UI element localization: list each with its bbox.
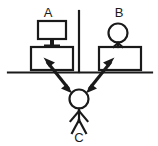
node-c-group[interactable]: C [70, 90, 89, 146]
connector-c-to-a-shaft [48, 63, 68, 88]
separator-group [8, 11, 152, 73]
person-b-head-icon [109, 24, 128, 43]
node-b-label: B [115, 5, 124, 20]
person-c-head-icon [70, 90, 89, 109]
node-a-group[interactable]: A [31, 5, 73, 70]
diagram-canvas: A B C [0, 0, 158, 146]
node-b-group[interactable]: B [99, 5, 141, 70]
monitor-screen-icon [38, 21, 66, 39]
diagram-svg: A B C [0, 0, 158, 146]
node-c-label: C [74, 130, 83, 145]
connector-c-to-b-arrowhead-lower [86, 84, 98, 94]
node-a-label: A [44, 5, 53, 20]
connector-c-to-b-arrowhead-upper [103, 58, 115, 68]
connector-c-to-a-arrowhead-upper [44, 58, 56, 68]
connector-c-to-a-arrowhead-lower [61, 84, 73, 94]
connector-c-to-a[interactable] [44, 58, 73, 94]
